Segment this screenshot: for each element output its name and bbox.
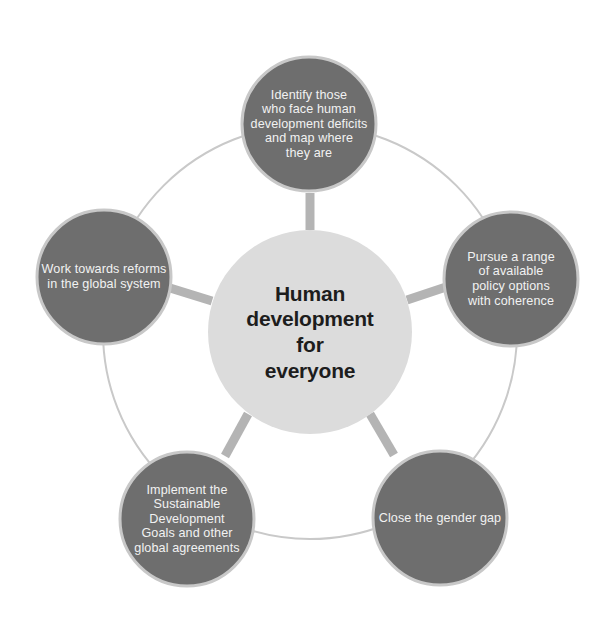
identify-deficits-node-circle (242, 57, 376, 191)
policy-coherence-node-circle (444, 212, 578, 346)
spoke-global-system-reforms (170, 288, 212, 301)
sustainable-development-goals-node-circle (120, 452, 254, 586)
gender-gap-node-circle (373, 451, 507, 585)
global-system-reforms-node-circle (37, 210, 171, 344)
node-shape-layer (37, 57, 578, 586)
spoke-sustainable-development-goals (225, 414, 248, 456)
diagram-canvas (0, 0, 616, 625)
diagram-root: Human development for everyone Identify … (0, 0, 616, 625)
spoke-policy-coherence (407, 287, 446, 300)
spoke-gender-gap (370, 414, 394, 455)
hub-node-circle (208, 230, 412, 434)
